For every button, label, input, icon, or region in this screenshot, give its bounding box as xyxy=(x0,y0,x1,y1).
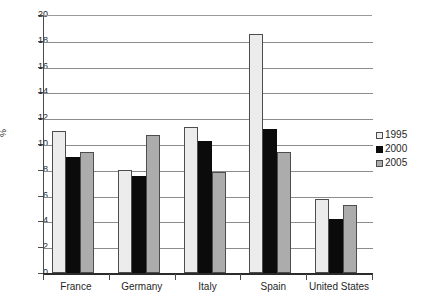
x-axis-tick xyxy=(372,274,373,280)
bar-spain-2000 xyxy=(263,129,277,273)
bar-france-2000 xyxy=(66,157,80,273)
legend-label-2000: 2000 xyxy=(385,144,407,154)
legend-label-1995: 1995 xyxy=(385,130,407,140)
legend-item-2000[interactable]: 2000 xyxy=(376,142,428,156)
x-axis-tick xyxy=(175,274,176,280)
bar-spain-2005 xyxy=(277,152,291,273)
y-axis-label: 4 xyxy=(8,216,48,225)
bar-france-1995 xyxy=(52,131,66,273)
chart-legend: 199520002005 xyxy=(376,128,428,170)
legend-item-1995[interactable]: 1995 xyxy=(376,128,428,142)
bar-italy-1995 xyxy=(184,127,198,273)
y-axis-label: 12 xyxy=(8,113,48,122)
x-axis-tick xyxy=(306,274,307,280)
bar-germany-2000 xyxy=(132,176,146,273)
gridline xyxy=(44,119,373,120)
legend-swatch-1995-icon xyxy=(376,132,383,139)
gridline xyxy=(44,274,373,275)
x-axis-tick xyxy=(240,274,241,280)
bar-france-2005 xyxy=(80,152,94,273)
y-axis-label: 6 xyxy=(8,191,48,200)
gridline xyxy=(44,93,373,94)
bar-spain-1995 xyxy=(249,34,263,273)
gridline xyxy=(44,68,373,69)
y-axis-label: 16 xyxy=(8,62,48,71)
bar-united-states-2005 xyxy=(343,205,357,273)
legend-label-2005: 2005 xyxy=(385,158,407,168)
chart-title xyxy=(0,0,428,4)
x-axis-line xyxy=(43,273,373,274)
bar-united-states-2000 xyxy=(329,219,343,273)
legend-swatch-2000-icon xyxy=(376,146,383,153)
y-axis-label: 10 xyxy=(8,139,48,148)
y-axis-label: 18 xyxy=(8,36,48,45)
bar-chart: % 02468101214161820 FranceGermanyItalySp… xyxy=(0,0,428,308)
bar-italy-2005 xyxy=(212,172,226,273)
bar-germany-1995 xyxy=(118,170,132,273)
y-axis-label: 20 xyxy=(8,10,48,19)
bar-germany-2005 xyxy=(146,135,160,273)
x-axis-tick xyxy=(109,274,110,280)
legend-swatch-2005-icon xyxy=(376,160,383,167)
legend-item-2005[interactable]: 2005 xyxy=(376,156,428,170)
y-axis-label: 14 xyxy=(8,87,48,96)
y-axis-label: 8 xyxy=(8,165,48,174)
gridline xyxy=(44,42,373,43)
bar-united-states-1995 xyxy=(315,199,329,273)
y-axis-title: % xyxy=(0,129,8,137)
bar-italy-2000 xyxy=(198,141,212,273)
y-axis-label: 0 xyxy=(8,268,48,277)
y-axis-label: 2 xyxy=(8,242,48,251)
x-axis-label-united-states: United States xyxy=(296,281,382,293)
plot-area xyxy=(43,15,372,273)
x-axis-tick xyxy=(43,274,44,280)
